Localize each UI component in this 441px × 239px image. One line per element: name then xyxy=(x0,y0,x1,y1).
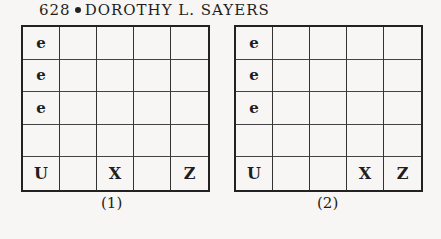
grid-cell xyxy=(60,92,97,125)
grid-cell xyxy=(134,60,171,93)
grid-cell xyxy=(134,125,171,158)
grid-cell xyxy=(273,125,310,158)
grid-cell xyxy=(171,27,208,60)
grid-cell xyxy=(97,60,134,93)
grid-cell xyxy=(60,60,97,93)
grid-cell xyxy=(97,92,134,125)
grid-cell xyxy=(273,92,310,125)
grid-cell xyxy=(310,157,347,190)
grid-cell: e xyxy=(236,60,273,93)
grid-cell xyxy=(97,125,134,158)
grid-cell xyxy=(310,92,347,125)
grid-cell xyxy=(384,27,421,60)
grid-cell xyxy=(171,125,208,158)
grid-cell: e xyxy=(23,60,60,93)
grid-diagram-2: eeeUXZ xyxy=(234,25,423,192)
grid-cell xyxy=(310,125,347,158)
grid-cell: U xyxy=(236,157,273,190)
grid-cell xyxy=(60,157,97,190)
grid-cell: X xyxy=(97,157,134,190)
grid-cell xyxy=(97,27,134,60)
grid-caption-2: (2) xyxy=(317,194,338,212)
bullet-icon xyxy=(75,7,81,13)
running-header: 628DOROTHY L. SAYERS xyxy=(39,1,270,19)
grid-cell xyxy=(347,27,384,60)
grid-caption-1: (1) xyxy=(101,194,122,212)
grid-cell: e xyxy=(23,92,60,125)
grid-cell: Z xyxy=(384,157,421,190)
grid-cell xyxy=(384,60,421,93)
grid-cell xyxy=(171,60,208,93)
page-number: 628 xyxy=(39,1,71,19)
grid-cell xyxy=(60,125,97,158)
grid-cell xyxy=(60,27,97,60)
grid-cell xyxy=(134,27,171,60)
grid-cell xyxy=(236,125,273,158)
grid-cell: U xyxy=(23,157,60,190)
grid-cell: e xyxy=(23,27,60,60)
grid-diagram-1: eeeUXZ xyxy=(21,25,210,192)
grid-cell: e xyxy=(236,92,273,125)
grid-cell: e xyxy=(236,27,273,60)
grid-cell xyxy=(347,60,384,93)
grid-cell xyxy=(134,157,171,190)
grid-cell xyxy=(347,92,384,125)
grid-cell xyxy=(310,27,347,60)
grid-cell xyxy=(310,60,347,93)
grid-cell xyxy=(273,27,310,60)
grid-cell: X xyxy=(347,157,384,190)
grid-cell xyxy=(171,92,208,125)
grid-cell xyxy=(384,92,421,125)
grid-cell: Z xyxy=(171,157,208,190)
grid-cell xyxy=(23,125,60,158)
grid-cell xyxy=(273,60,310,93)
grid-cell xyxy=(134,92,171,125)
grid-cell xyxy=(273,157,310,190)
author-name: DOROTHY L. SAYERS xyxy=(85,1,270,19)
grid-cell xyxy=(384,125,421,158)
grid-cell xyxy=(347,125,384,158)
